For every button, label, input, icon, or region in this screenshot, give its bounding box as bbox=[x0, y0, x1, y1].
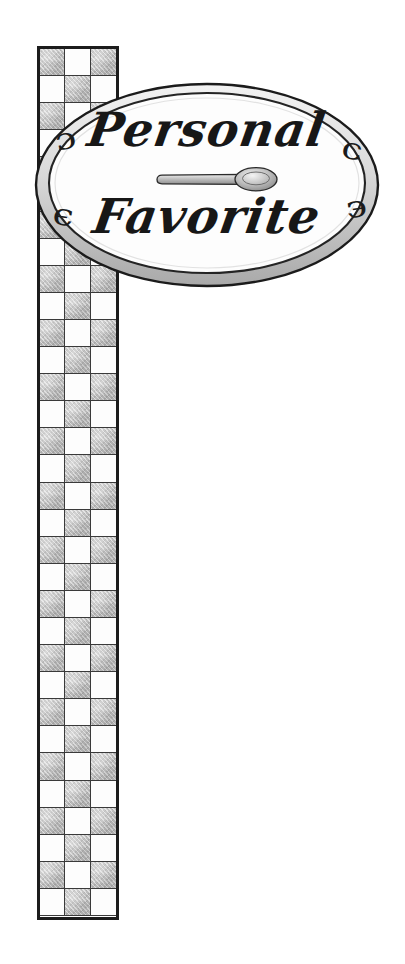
checker-cell bbox=[65, 618, 90, 645]
checker-cell bbox=[91, 320, 116, 347]
checker-cell bbox=[40, 483, 65, 510]
checker-cell bbox=[91, 645, 116, 672]
checker-cell bbox=[40, 672, 65, 699]
checker-cell bbox=[91, 618, 116, 645]
checker-cell bbox=[91, 835, 116, 862]
checker-cell bbox=[65, 835, 90, 862]
checker-cell bbox=[65, 510, 90, 537]
checker-cell bbox=[65, 726, 90, 753]
checker-cell bbox=[91, 374, 116, 401]
checker-cell bbox=[91, 753, 116, 780]
checker-cell bbox=[65, 808, 90, 835]
checker-cell bbox=[91, 591, 116, 618]
checker-cell bbox=[65, 889, 90, 916]
checker-cell bbox=[91, 510, 116, 537]
checker-cell bbox=[91, 347, 116, 374]
checker-cell bbox=[40, 293, 65, 320]
checker-cell bbox=[91, 726, 116, 753]
oval-inner-ring bbox=[49, 93, 365, 273]
checker-cell bbox=[91, 483, 116, 510]
checker-cell bbox=[40, 564, 65, 591]
checker-cell bbox=[65, 293, 90, 320]
checker-cell bbox=[40, 374, 65, 401]
checker-cell bbox=[65, 672, 90, 699]
checker-cell bbox=[65, 401, 90, 428]
checker-cell bbox=[65, 347, 90, 374]
oval-sign: Personal Favorite ɔ є ɔ є bbox=[33, 80, 381, 290]
checker-cell bbox=[40, 889, 65, 916]
checker-cell bbox=[91, 862, 116, 889]
checker-cell bbox=[40, 591, 65, 618]
checker-cell bbox=[40, 699, 65, 726]
checker-cell bbox=[65, 455, 90, 482]
checker-cell bbox=[91, 428, 116, 455]
checker-cell bbox=[40, 862, 65, 889]
checker-cell bbox=[40, 455, 65, 482]
checker-cell bbox=[65, 537, 90, 564]
checker-cell bbox=[65, 781, 90, 808]
checker-cell bbox=[91, 293, 116, 320]
checker-cell bbox=[91, 49, 116, 76]
checker-cell bbox=[65, 753, 90, 780]
checker-cell bbox=[91, 564, 116, 591]
checker-cell bbox=[40, 808, 65, 835]
checker-cell bbox=[91, 455, 116, 482]
checker-cell bbox=[65, 49, 90, 76]
checker-cell bbox=[91, 672, 116, 699]
checker-cell bbox=[40, 347, 65, 374]
checker-cell bbox=[65, 645, 90, 672]
checker-cell bbox=[40, 510, 65, 537]
checker-cell bbox=[91, 889, 116, 916]
personal-favorite-illustration: Personal Favorite ɔ є ɔ є bbox=[0, 0, 405, 964]
checker-cell bbox=[65, 320, 90, 347]
checker-cell bbox=[65, 483, 90, 510]
checker-cell bbox=[40, 645, 65, 672]
checker-cell bbox=[40, 401, 65, 428]
checker-cell bbox=[40, 49, 65, 76]
checker-cell bbox=[65, 699, 90, 726]
checker-cell bbox=[40, 428, 65, 455]
checker-cell bbox=[65, 862, 90, 889]
checker-cell bbox=[91, 537, 116, 564]
checker-cell bbox=[91, 808, 116, 835]
oval-sign-frame bbox=[33, 80, 381, 290]
checker-cell bbox=[40, 726, 65, 753]
checker-cell bbox=[65, 564, 90, 591]
checker-cell bbox=[40, 320, 65, 347]
checker-cell bbox=[40, 537, 65, 564]
checker-cell bbox=[65, 374, 90, 401]
checker-cell bbox=[40, 835, 65, 862]
checker-cell bbox=[65, 428, 90, 455]
checker-cell bbox=[91, 781, 116, 808]
checker-cell bbox=[40, 753, 65, 780]
checker-cell bbox=[91, 699, 116, 726]
checker-cell bbox=[91, 401, 116, 428]
checker-cell bbox=[65, 591, 90, 618]
checker-cell bbox=[40, 618, 65, 645]
checker-cell bbox=[40, 781, 65, 808]
